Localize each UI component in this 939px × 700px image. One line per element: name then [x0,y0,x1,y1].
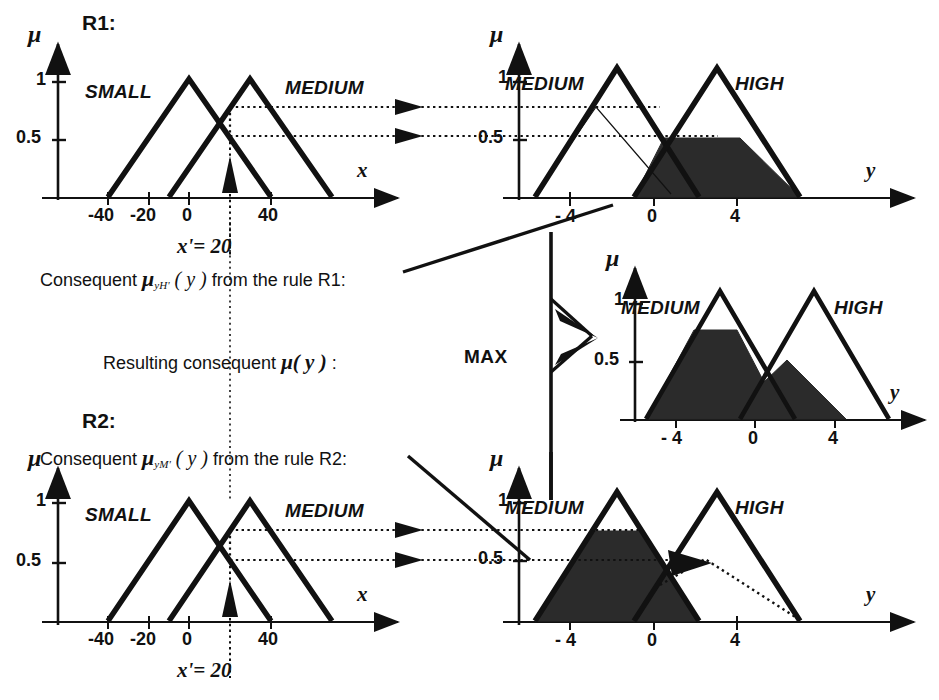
ytick-label-05-r1c: 0.5 [478,128,503,146]
set-label-small-r2: SMALL [85,505,152,524]
xtick-label-4-r2c: 4 [730,631,740,649]
set-label-medium-r1c: MEDIUM [505,74,584,93]
ytick-label-05-r1a: 0.5 [16,128,41,146]
ytick-label-1-r2a: 1 [36,491,46,509]
caption-resulting-mu: μ( y ) [281,350,327,374]
ytick-label-05-r2c: 0.5 [478,549,503,567]
set-label-high-r2c: HIGH [735,498,784,517]
xtick-label-minus4-r1c: - 4 [555,207,576,225]
caption-consequent-r1-arg: ( y ) [175,268,207,290]
xtick-label-minus4-r2c: - 4 [555,631,576,649]
set-label-medium-result: MEDIUM [621,298,700,317]
caption-consequent-r2-arg: ( y ) [176,447,208,469]
set-label-medium-r2: MEDIUM [285,501,364,520]
max-arrowhead-upper [555,309,598,338]
set-label-high-result: HIGH [834,298,883,317]
axis-label-x-r2: x [357,584,368,605]
readout-arrow-0p5 [395,128,423,144]
xtick-label-minus4-result: - 4 [661,429,682,447]
axis-label-mu-result: μ [606,246,619,270]
set-label-medium-r1: MEDIUM [285,78,364,97]
xtick-label-40-r1: 40 [258,206,278,224]
axis-label-x-r1: x [357,160,368,181]
xtick-label-minus20-r1: -20 [130,206,156,224]
figure-canvas: μ R1: 1 0.5 SMALL MEDIUM x -40 -20 0 40 … [0,0,939,700]
axis-label-y-r2c: y [866,584,875,605]
readout-arrow-0p75 [395,99,423,115]
set-label-small-r1: SMALL [85,82,152,101]
axis-label-y-r1c: y [866,160,875,181]
xtick-label-minus20-r2: -20 [130,630,156,648]
caption-consequent-r1-suffix: from the rule R1: [212,270,346,290]
caption-consequent-r1: Consequent μyH' ( y ) from the rule R1: [40,268,346,291]
rule-title-r2: R2: [82,410,116,431]
clip-indicator-arrow [668,550,712,576]
xtick-label-4-r1c: 4 [730,207,740,225]
max-bracket [551,232,598,500]
xtick-label-0-r1: 0 [182,206,192,224]
axis-label-mu-r2-consequent: μ [490,446,503,470]
axis-label-y-result: y [890,382,899,403]
ytick-label-05-result: 0.5 [594,350,619,368]
caption-consequent-r1-mu: μ [142,266,154,291]
crisp-input-label-r2: x'= 20 [177,660,232,681]
caption-consequent-r1-subscript: yH' [154,279,169,291]
chart-result [620,268,925,428]
clipped-area-medium [535,531,699,621]
max-operator-label: MAX [464,347,508,366]
connector-r1-to-max [403,205,613,272]
caption-consequent-r2-suffix: from the rule R2: [213,449,347,469]
xtick-label-40-r2: 40 [258,630,278,648]
crisp-input-label-r1: x'= 20 [177,236,232,257]
chart-r1-consequent [445,44,914,206]
caption-consequent-r2-subscript: yM' [154,458,170,470]
xtick-label-0-r2: 0 [182,630,192,648]
set-label-high-r1c: HIGH [735,74,784,93]
xtick-label-0-result: 0 [748,429,758,447]
xtick-label-4-result: 4 [828,429,838,447]
caption-resulting-colon: : [332,353,337,373]
readout-arrow-0p75 [395,522,423,538]
readout-arrow-0p5 [395,552,423,568]
axis-label-mu-r1-consequent: μ [490,22,503,46]
xtick-label-0-r2c: 0 [647,631,657,649]
caption-consequent-r2-mu: μ [142,445,154,470]
xtick-label-minus40-r1: -40 [88,206,114,224]
axis-label-mu-r1-antecedent: μ [28,22,41,46]
crisp-input-arrowhead [222,580,238,617]
caption-resulting-consequent: Resulting consequent μ( y ) : [103,352,337,373]
caption-consequent-r1-prefix: Consequent [40,270,137,290]
caption-resulting-prefix: Resulting consequent [103,353,276,373]
rule-title-r1: R1: [82,12,116,33]
ytick-label-05-r2a: 0.5 [16,551,41,569]
clipped-area-high [634,138,800,197]
crisp-input-arrowhead [222,156,238,193]
caption-consequent-r2: Consequent μyM' ( y ) from the rule R2: [40,447,347,470]
ytick-label-1-r1a: 1 [36,70,46,88]
xtick-label-minus40-r2: -40 [88,630,114,648]
xtick-label-0-r1c: 0 [647,207,657,225]
axis-label-mu-r2-antecedent: μ [28,446,41,470]
caption-consequent-r2-prefix: Consequent [40,449,137,469]
set-label-medium-r2c: MEDIUM [505,498,584,517]
